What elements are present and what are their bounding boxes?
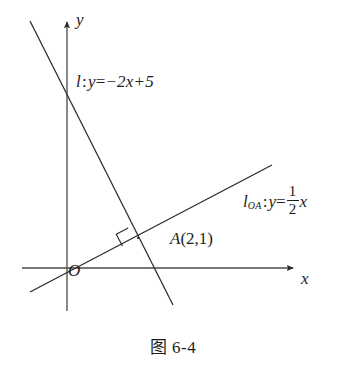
- line-l-colon: :: [81, 72, 88, 91]
- line-l-equals: =: [96, 72, 106, 91]
- point-a-marker: [137, 237, 139, 239]
- origin-label: O: [68, 262, 80, 279]
- fraction-denominator: 2: [287, 201, 299, 217]
- line-oa-equation-label: lOA:y= 1 2 x: [243, 185, 307, 219]
- figure-caption: 图 6-4: [0, 333, 346, 358]
- one-half-fraction: 1 2: [287, 184, 299, 218]
- figure-container: y x O l:y=−2x+5 lOA:y= 1 2 x A(2,1) 图 6-…: [0, 0, 346, 373]
- line-l-lhs: y: [88, 72, 96, 91]
- line-oa-equals: =: [276, 193, 286, 210]
- y-axis-label: y: [76, 11, 84, 28]
- right-angle-marker: [116, 228, 134, 246]
- line-oa: [30, 165, 272, 292]
- line-oa-lhs: y: [268, 193, 276, 210]
- point-a-name: A: [170, 229, 180, 248]
- line-oa-variable: x: [300, 193, 308, 210]
- line-l-equation-label: l:y=−2x+5: [76, 73, 154, 90]
- line-l-rhs: −2x+5: [105, 72, 154, 91]
- point-a-label: A(2,1): [170, 230, 213, 247]
- point-a-close-paren: ): [207, 229, 213, 248]
- point-a-x: 2: [186, 229, 195, 248]
- fraction-numerator: 1: [287, 184, 299, 200]
- x-axis-label: x: [301, 270, 309, 287]
- line-l: [30, 21, 173, 305]
- line-oa-subscript: OA: [248, 201, 262, 211]
